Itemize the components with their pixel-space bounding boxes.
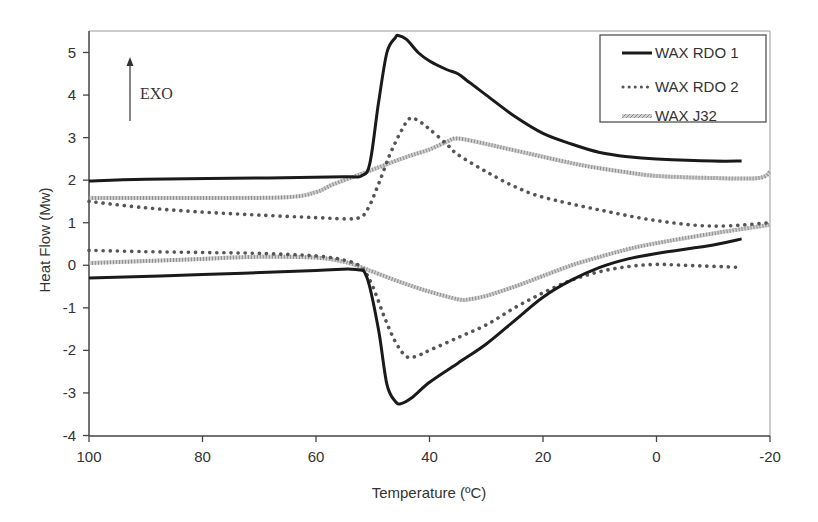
y-tick-label: -3 [63, 384, 76, 401]
x-tick-label: 40 [421, 448, 438, 465]
series-line [89, 250, 742, 357]
x-tick-label: 100 [76, 448, 101, 465]
legend-label: WAX RDO 1 [655, 44, 739, 61]
y-tick-label: -4 [63, 427, 76, 444]
dsc-chart: -4-3-2-1012345 100806040200-20 Temperatu… [0, 0, 818, 522]
hatched-line-icon [622, 114, 652, 118]
legend-label: WAX J32 [655, 107, 717, 124]
y-tick-label: -1 [63, 299, 76, 316]
y-tick-label: 5 [68, 44, 76, 61]
x-axis-title: Temperature (ºC) [372, 484, 487, 501]
y-tick-label: 1 [68, 214, 76, 231]
y-tick-label: -2 [63, 341, 76, 358]
y-axis-title: Heat Flow (Mw) [36, 187, 53, 292]
exo-arrowhead-icon [127, 57, 134, 66]
exo-annotation: EXO [127, 57, 173, 121]
legend: WAX RDO 1 WAX RDO 2 WAX J32 [600, 35, 766, 124]
y-tick-label: 0 [68, 256, 76, 273]
exo-label: EXO [140, 85, 173, 102]
x-tick-label: 0 [652, 448, 660, 465]
y-tick-label: 3 [68, 129, 76, 146]
x-axis-ticks: 100806040200-20 [76, 436, 780, 465]
series-line-base [89, 138, 770, 198]
x-tick-label: 20 [535, 448, 552, 465]
y-tick-label: 2 [68, 171, 76, 188]
series-line [89, 225, 770, 300]
series-line-base [89, 225, 770, 300]
y-axis-ticks: -4-3-2-1012345 [63, 44, 89, 444]
x-tick-label: 80 [194, 448, 211, 465]
series-wax-rdo-2 [89, 118, 770, 358]
series-line [89, 118, 770, 226]
x-tick-label: 60 [308, 448, 325, 465]
legend-label: WAX RDO 2 [655, 78, 739, 95]
y-tick-label: 4 [68, 86, 76, 103]
x-tick-label: -20 [759, 448, 781, 465]
